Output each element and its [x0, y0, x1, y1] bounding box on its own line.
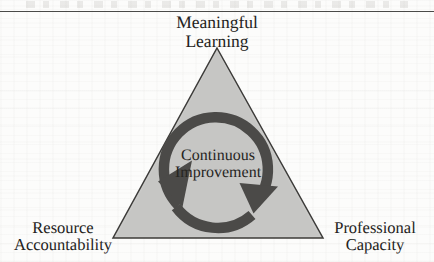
vertex-label-meaningful-learning: Meaningful Learning [0, 13, 434, 50]
vertex-label-line1: Professional [316, 219, 434, 236]
cycle-label-line2: Improvement [147, 165, 289, 182]
vertex-label-professional-capacity: Professional Capacity [316, 219, 434, 254]
cycle-center-label-continuous-improvement: Continuous Improvement [147, 148, 289, 182]
vertex-label-resource-accountability: Resource Accountability [4, 219, 122, 254]
figure-root: Meaningful Learning Resource Accountabil… [0, 0, 434, 262]
cycle-label-line1: Continuous [147, 148, 289, 165]
vertex-label-line2: Accountability [4, 236, 122, 253]
triangle-inner-shading [117, 52, 319, 236]
vertex-label-line1: Meaningful [0, 13, 434, 32]
vertex-label-line2: Learning [0, 32, 434, 51]
vertex-label-line2: Capacity [316, 236, 434, 253]
vertex-label-line1: Resource [4, 219, 122, 236]
